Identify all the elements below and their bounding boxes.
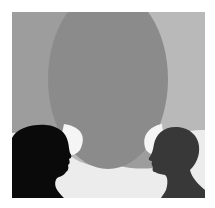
conversation-illustration [12,12,205,198]
illustration-frame [12,12,205,198]
